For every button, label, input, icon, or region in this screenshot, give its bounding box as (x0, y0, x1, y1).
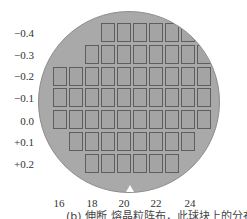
die (53, 67, 67, 86)
die (181, 45, 195, 64)
die (85, 132, 99, 151)
die (165, 132, 179, 151)
die (53, 110, 67, 129)
die (181, 88, 195, 107)
die (101, 45, 115, 64)
y-tick-label: +0.1 (0, 136, 34, 148)
die (101, 23, 115, 42)
x-tick-label: 16 (49, 197, 69, 209)
die (85, 154, 99, 173)
die (117, 132, 131, 151)
die (133, 23, 147, 42)
die (133, 67, 147, 86)
die (181, 132, 195, 151)
die (197, 110, 211, 129)
die (149, 23, 163, 42)
x-tick-label: 20 (114, 197, 134, 209)
die (165, 45, 179, 64)
y-tick-label: −0.1 (0, 92, 34, 104)
die (101, 88, 115, 107)
die (101, 132, 115, 151)
die (149, 132, 163, 151)
die (133, 154, 147, 173)
x-tick-label: 18 (82, 197, 102, 209)
die (149, 67, 163, 86)
die (69, 110, 83, 129)
die (117, 67, 131, 86)
die (85, 110, 99, 129)
die (101, 110, 115, 129)
figure-caption: (b) 伸断 熔晶粒阵布，此球块上的分布示意图 (66, 211, 247, 219)
die (149, 45, 163, 64)
die (85, 45, 99, 64)
die (133, 88, 147, 107)
die (133, 132, 147, 151)
die (149, 154, 163, 173)
die (181, 110, 195, 129)
die (133, 45, 147, 64)
x-tick-label: 22 (146, 197, 166, 209)
die (181, 23, 195, 42)
x-tick-label: 24 (180, 197, 200, 209)
y-tick-label: −0.2 (0, 70, 34, 82)
die (69, 88, 83, 107)
die (117, 110, 131, 129)
die (85, 67, 99, 86)
wafer-notch (126, 185, 134, 192)
die (69, 132, 83, 151)
y-tick-label: −0.3 (0, 49, 34, 61)
die (133, 110, 147, 129)
die (165, 154, 179, 173)
die (117, 23, 131, 42)
die (53, 88, 67, 107)
die (165, 67, 179, 86)
die (197, 67, 211, 86)
die (101, 67, 115, 86)
die (165, 88, 179, 107)
y-tick-label: −0.4 (0, 27, 34, 39)
die (117, 88, 131, 107)
y-tick-label: 0.0 (0, 115, 34, 127)
wafer (38, 11, 220, 193)
y-tick-label: +0.2 (0, 158, 34, 170)
die (149, 88, 163, 107)
die (197, 88, 211, 107)
die (165, 23, 179, 42)
die (149, 110, 163, 129)
die (117, 45, 131, 64)
die (117, 154, 131, 173)
die (165, 110, 179, 129)
die (181, 67, 195, 86)
die (85, 88, 99, 107)
die (69, 67, 83, 86)
die (197, 45, 211, 64)
die (101, 154, 115, 173)
